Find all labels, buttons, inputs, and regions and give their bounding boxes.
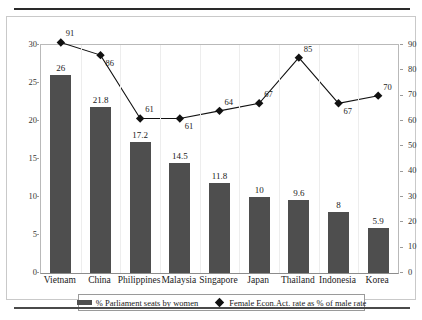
line-marker-indonesia (334, 99, 342, 107)
legend-label-bars: % Parliament seats by women (96, 298, 198, 308)
left-axis-tick-mark (36, 272, 39, 273)
bar-philippines (130, 142, 151, 273)
left-axis-tick-mark (36, 44, 39, 45)
right-axis-tick-label: 80 (408, 65, 417, 74)
line-marker-malaysia (176, 114, 184, 122)
left-axis-tick-mark (36, 158, 39, 159)
bar-malaysia (169, 163, 190, 273)
left-axis-tick-mark (36, 234, 39, 235)
plot-area: 2621.817.214.511.8109.685.99186616164678… (40, 44, 399, 274)
chart-frame: 051015202530 0102030405060708090 2621.81… (6, 16, 416, 300)
line-value-label: 86 (106, 59, 115, 68)
page-rule-bottom (14, 307, 410, 309)
right-axis: 0102030405060708090 (400, 44, 422, 272)
bar-value-label: 9.6 (279, 189, 319, 198)
category-separator (239, 45, 240, 273)
bar-value-label: 10 (239, 186, 279, 195)
line-value-label: 85 (304, 45, 313, 54)
right-axis-tick-mark (400, 196, 403, 197)
category-separator (358, 45, 359, 273)
right-axis-tick-label: 40 (408, 166, 417, 175)
line-value-label: 61 (145, 105, 154, 114)
right-axis-tick-mark (400, 120, 403, 121)
line-marker-thailand (295, 53, 303, 61)
line-marker-philippines (136, 114, 144, 122)
line-marker-china (96, 51, 104, 59)
right-axis-tick-label: 60 (408, 116, 417, 125)
bar-value-label: 11.8 (200, 172, 240, 181)
line-marker-singapore (215, 107, 223, 115)
bar-singapore (209, 183, 230, 273)
category-separator (319, 45, 320, 273)
category-separator (279, 45, 280, 273)
bar-korea (368, 228, 389, 273)
line-marker-japan (255, 99, 263, 107)
bar-value-label: 21.8 (81, 96, 121, 105)
right-axis-tick-label: 90 (408, 40, 417, 49)
right-axis-tick-label: 30 (408, 192, 417, 201)
right-axis-tick-label: 0 (408, 268, 412, 277)
bar-value-label: 8 (319, 201, 359, 210)
left-axis-tick-mark (36, 120, 39, 121)
left-axis: 051015202530 (9, 44, 37, 272)
line-value-label: 67 (264, 90, 273, 99)
bar-value-label: 5.9 (358, 217, 398, 226)
bar-china (90, 107, 111, 273)
line-marker-vietnam (57, 38, 65, 46)
right-axis-tick-mark (400, 44, 403, 45)
category-separator (120, 45, 121, 273)
right-axis-tick-mark (400, 171, 403, 172)
right-axis-tick-label: 50 (408, 141, 417, 150)
line-value-label: 70 (383, 83, 392, 92)
category-separator (81, 45, 82, 273)
bar-swatch-icon (77, 300, 92, 305)
right-axis-tick-mark (400, 221, 403, 222)
right-axis-tick-label: 20 (408, 217, 417, 226)
bar-thailand (288, 200, 309, 273)
bar-value-label: 17.2 (120, 131, 160, 140)
bar-vietnam (50, 75, 71, 273)
page-rule-top (14, 8, 410, 10)
right-axis-tick-label: 70 (408, 90, 417, 99)
line-value-label: 64 (225, 98, 234, 107)
line-value-label: 67 (344, 107, 353, 116)
bar-indonesia (328, 212, 349, 273)
line-value-label: 61 (185, 122, 194, 131)
line-value-label: 91 (66, 29, 75, 38)
line-marker-korea (374, 91, 382, 99)
category-axis-labels: VietnamChinaPhilippinesMalaysiaSingapore… (40, 275, 397, 291)
bar-value-label: 14.5 (160, 152, 200, 161)
right-axis-tick-mark (400, 272, 403, 273)
left-axis-tick-mark (36, 82, 39, 83)
right-axis-tick-mark (400, 145, 403, 146)
legend-entry-bars: % Parliament seats by women (77, 298, 198, 308)
bar-japan (249, 197, 270, 273)
bar-value-label: 26 (41, 64, 81, 73)
category-label-korea: Korea (347, 275, 407, 285)
legend-label-line: Female Econ.Act. rate as % of male rate (229, 298, 366, 308)
right-axis-tick-mark (400, 69, 403, 70)
right-axis-tick-label: 10 (408, 242, 417, 251)
left-axis-tick-mark (36, 196, 39, 197)
right-axis-tick-mark (400, 95, 403, 96)
right-axis-tick-mark (400, 247, 403, 248)
